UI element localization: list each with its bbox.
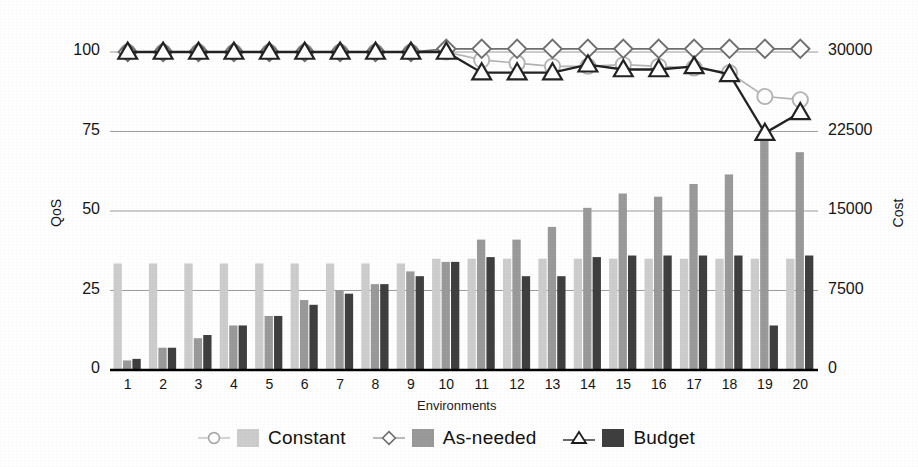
as-needed-swatch-icon <box>412 429 434 447</box>
bar <box>380 284 388 370</box>
bar <box>805 256 813 370</box>
x-axis-tick: 18 <box>710 376 750 392</box>
line-series-budget <box>118 43 809 140</box>
x-axis-tick: 16 <box>639 376 679 392</box>
bar <box>477 240 485 370</box>
bar <box>123 360 131 370</box>
y-axis-right-title: Cost <box>890 199 906 228</box>
legend-label-constant: Constant <box>268 427 346 449</box>
legend-item-as-needed[interactable]: As-needed <box>372 427 537 449</box>
bar <box>168 348 176 370</box>
bar <box>300 300 308 370</box>
diamond-marker-icon <box>372 428 406 448</box>
bar <box>689 184 697 370</box>
bar <box>557 276 565 370</box>
x-axis-tick: 11 <box>462 376 502 392</box>
bar <box>229 325 237 370</box>
triangle-marker-icon <box>562 428 596 448</box>
bar <box>114 263 122 370</box>
legend-label-budget: Budget <box>633 427 694 449</box>
bar <box>786 259 794 370</box>
bar <box>326 263 334 370</box>
circle-marker-icon <box>197 428 231 448</box>
y-axis-right-tick: 7500 <box>828 280 864 298</box>
bar <box>220 263 228 370</box>
circle-marker-icon <box>757 89 772 104</box>
chart-container: QoS Cost Environments Constant As-ne <box>0 0 918 467</box>
diamond-marker-icon <box>756 40 774 58</box>
bar <box>345 294 353 370</box>
bar <box>184 263 192 370</box>
x-axis-tick: 9 <box>391 376 431 392</box>
x-axis-tick: 8 <box>356 376 396 392</box>
chart-legend: Constant As-needed Budget <box>0 418 918 458</box>
diamond-marker-icon <box>720 40 738 58</box>
bar <box>432 259 440 370</box>
x-axis-tick: 1 <box>108 376 148 392</box>
x-axis-title: Environments <box>417 398 496 413</box>
qos-cost-chart <box>0 0 918 467</box>
bar <box>699 256 707 370</box>
bar <box>680 259 688 370</box>
legend-item-budget[interactable]: Budget <box>562 427 694 449</box>
x-axis-tick: 2 <box>143 376 183 392</box>
constant-swatch-icon <box>237 429 259 447</box>
diamond-marker-icon <box>650 40 668 58</box>
bar <box>609 259 617 370</box>
y-axis-right-tick: 30000 <box>828 41 873 59</box>
bar <box>654 197 662 370</box>
bar <box>255 263 263 370</box>
bar <box>512 240 520 370</box>
y-axis-right-tick: 0 <box>828 359 837 377</box>
bar <box>796 152 804 370</box>
bar <box>132 359 140 370</box>
legend-label-as-needed: As-needed <box>443 427 537 449</box>
y-axis-left-tick: 100 <box>48 41 100 59</box>
diamond-marker-icon <box>614 40 632 58</box>
bar <box>335 291 343 371</box>
y-axis-right-tick: 15000 <box>828 200 873 218</box>
x-axis-tick: 3 <box>179 376 219 392</box>
line-series-constant <box>120 44 808 107</box>
diamond-marker-icon <box>791 40 809 58</box>
bar <box>149 263 157 370</box>
bar <box>522 276 530 370</box>
bar <box>291 263 299 370</box>
bar <box>194 338 202 370</box>
bar <box>361 263 369 370</box>
y-axis-left-tick: 50 <box>48 200 100 218</box>
bar <box>628 256 636 370</box>
bar <box>538 259 546 370</box>
bar <box>619 194 627 370</box>
bar <box>468 259 476 370</box>
y-axis-left-tick: 0 <box>48 359 100 377</box>
x-axis-tick: 10 <box>426 376 466 392</box>
diamond-marker-icon <box>543 40 561 58</box>
bar <box>760 141 768 370</box>
x-axis-tick: 14 <box>568 376 608 392</box>
bar <box>451 262 459 370</box>
bar <box>442 262 450 370</box>
bar <box>503 259 511 370</box>
triangle-marker-icon <box>791 103 810 119</box>
bar <box>416 276 424 370</box>
bar <box>725 174 733 370</box>
bar <box>574 259 582 370</box>
x-axis-tick: 17 <box>674 376 714 392</box>
x-axis-tick: 19 <box>745 376 785 392</box>
x-axis-tick: 20 <box>780 376 820 392</box>
x-axis-tick: 12 <box>497 376 537 392</box>
bar <box>239 325 247 370</box>
bar <box>645 259 653 370</box>
bar <box>593 257 601 370</box>
bar <box>663 256 671 370</box>
bar <box>548 227 556 370</box>
bar <box>715 259 723 370</box>
y-axis-left-tick: 75 <box>48 121 100 139</box>
legend-item-constant[interactable]: Constant <box>197 427 346 449</box>
x-axis-tick: 6 <box>285 376 325 392</box>
x-axis-tick: 5 <box>249 376 289 392</box>
bar <box>371 284 379 370</box>
bar <box>734 256 742 370</box>
bar <box>158 348 166 370</box>
